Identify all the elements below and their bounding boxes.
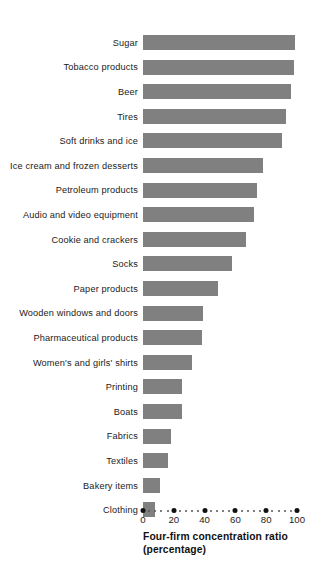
axis-minor-dot xyxy=(278,510,280,512)
bar-track xyxy=(143,60,294,75)
bar-track xyxy=(143,355,192,370)
axis-tick-label: 0 xyxy=(128,514,158,525)
axis-minor-dot xyxy=(191,510,193,512)
bar xyxy=(143,109,286,124)
axis-tick-dot xyxy=(171,508,176,513)
bar-track xyxy=(143,207,254,222)
axis-minor-dot xyxy=(241,510,243,512)
bar-row: Cookie and crackers xyxy=(0,228,324,253)
bar-track xyxy=(143,429,171,444)
bar-row: Beer xyxy=(0,80,324,105)
bar-track xyxy=(143,404,182,419)
bar xyxy=(143,133,282,148)
bar-row: Ice cream and frozen desserts xyxy=(0,154,324,179)
bar-row: Sugar xyxy=(0,31,324,56)
bar-track xyxy=(143,256,232,271)
bar-row: Bakery items xyxy=(0,474,324,499)
axis-minor-dot xyxy=(253,510,255,512)
bar-row: Soft drinks and ice xyxy=(0,129,324,154)
axis-tick-label: 100 xyxy=(282,514,312,525)
axis-minor-dot xyxy=(179,510,181,512)
bar-category-label: Sugar xyxy=(0,38,138,49)
axis-tick-dot xyxy=(295,508,300,513)
bar-category-label: Wooden windows and doors xyxy=(0,308,138,319)
bar-row: Socks xyxy=(0,252,324,277)
bar xyxy=(143,404,182,419)
plot-area: SugarTobacco productsBeerTiresSoft drink… xyxy=(0,31,324,501)
bar-category-label: Women's and girls' shirts xyxy=(0,358,138,369)
axis-minor-dot xyxy=(148,510,150,512)
bar-category-label: Tires xyxy=(0,112,138,123)
axis-tick-label: 40 xyxy=(190,514,220,525)
bar-category-label: Printing xyxy=(0,382,138,393)
axis-tick-dot xyxy=(233,508,238,513)
bar-track xyxy=(143,84,291,99)
bar-row: Textiles xyxy=(0,449,324,474)
bar-row: Women's and girls' shirts xyxy=(0,351,324,376)
axis-minor-dot xyxy=(247,510,249,512)
bar-track xyxy=(143,183,257,198)
axis-minor-dot xyxy=(228,510,230,512)
axis-minor-dot xyxy=(290,510,292,512)
bar-category-label: Paper products xyxy=(0,284,138,295)
bar-track xyxy=(143,35,295,50)
axis-minor-dot xyxy=(197,510,199,512)
axis-minor-dot xyxy=(271,510,273,512)
bar-row: Printing xyxy=(0,375,324,400)
bar xyxy=(143,60,294,75)
axis-minor-dot xyxy=(259,510,261,512)
axis-tick-dot xyxy=(202,508,207,513)
bar-category-label: Pharmaceutical products xyxy=(0,333,138,344)
axis-minor-dot xyxy=(185,510,187,512)
bar-category-label: Socks xyxy=(0,259,138,270)
bar-row: Wooden windows and doors xyxy=(0,302,324,327)
bar xyxy=(143,355,192,370)
bar-track xyxy=(143,330,202,345)
bar-track xyxy=(143,453,168,468)
bar-category-label: Soft drinks and ice xyxy=(0,136,138,147)
bar xyxy=(143,330,202,345)
bar-track xyxy=(143,109,286,124)
bar-category-label: Textiles xyxy=(0,456,138,467)
x-axis: Four-firm concentration ratio (percentag… xyxy=(0,501,324,578)
bar xyxy=(143,84,291,99)
bar xyxy=(143,183,257,198)
bar xyxy=(143,306,203,321)
bar-category-label: Beer xyxy=(0,87,138,98)
axis-tick-dot xyxy=(264,508,269,513)
bar-category-label: Tobacco products xyxy=(0,62,138,73)
bar-category-label: Bakery items xyxy=(0,481,138,492)
bar-category-label: Boats xyxy=(0,407,138,418)
bar xyxy=(143,429,171,444)
axis-minor-dot xyxy=(154,510,156,512)
axis-tick-label: 20 xyxy=(159,514,189,525)
bar-row: Tobacco products xyxy=(0,56,324,81)
bar-category-label: Fabrics xyxy=(0,431,138,442)
bar xyxy=(143,232,246,247)
bar xyxy=(143,158,263,173)
axis-minor-dot xyxy=(216,510,218,512)
bar xyxy=(143,281,218,296)
bar xyxy=(143,256,232,271)
bar-track xyxy=(143,379,182,394)
axis-minor-dot xyxy=(284,510,286,512)
bar-category-label: Cookie and crackers xyxy=(0,235,138,246)
bar-category-label: Petroleum products xyxy=(0,185,138,196)
axis-title-line-1: Four-firm concentration ratio xyxy=(143,530,288,543)
axis-title-line-2: (percentage) xyxy=(143,543,288,556)
bar-track xyxy=(143,478,160,493)
bar-row: Pharmaceutical products xyxy=(0,326,324,351)
bar-track xyxy=(143,133,282,148)
bar-category-label: Audio and video equipment xyxy=(0,210,138,221)
bar-row: Audio and video equipment xyxy=(0,203,324,228)
bar-row: Tires xyxy=(0,105,324,130)
bar xyxy=(143,478,160,493)
bar-row: Petroleum products xyxy=(0,179,324,204)
four-firm-concentration-bar-chart: SugarTobacco productsBeerTiresSoft drink… xyxy=(0,0,324,578)
axis-minor-dot xyxy=(210,510,212,512)
bar-track xyxy=(143,306,203,321)
bar-row: Fabrics xyxy=(0,425,324,450)
axis-minor-dot xyxy=(167,510,169,512)
axis-tick-dot xyxy=(141,508,146,513)
bar xyxy=(143,35,295,50)
